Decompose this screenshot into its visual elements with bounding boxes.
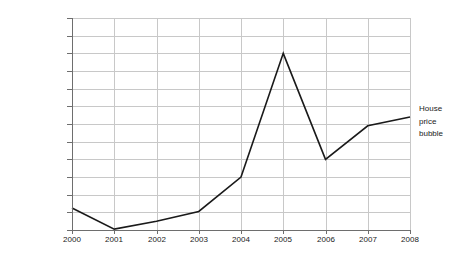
x-tick-mark xyxy=(114,230,115,234)
legend-label: House price bubble xyxy=(419,103,443,141)
x-tick-mark xyxy=(157,230,158,234)
y-axis-line xyxy=(72,18,73,230)
x-tick-label: 2004 xyxy=(232,236,250,244)
x-tick-mark xyxy=(199,230,200,234)
plot-area xyxy=(72,18,410,230)
x-tick-label: 2000 xyxy=(63,236,81,244)
x-tick-label: 2001 xyxy=(105,236,123,244)
x-tick-label: 2006 xyxy=(317,236,335,244)
x-tick-mark xyxy=(410,230,411,234)
x-tick-label: 2008 xyxy=(401,236,419,244)
series-house-price-bubble xyxy=(72,18,410,230)
x-tick-mark xyxy=(72,230,73,234)
x-tick-mark xyxy=(283,230,284,234)
x-tick-label: 2007 xyxy=(359,236,377,244)
x-tick-label: 2002 xyxy=(148,236,166,244)
x-tick-label: 2003 xyxy=(190,236,208,244)
series-polyline xyxy=(72,53,410,229)
x-tick-label: 2005 xyxy=(274,236,292,244)
gridline-vertical xyxy=(410,18,411,230)
x-tick-mark xyxy=(368,230,369,234)
x-tick-mark xyxy=(241,230,242,234)
x-tick-mark xyxy=(326,230,327,234)
line-chart: 0.000000240%0.000000220%0.000000200%0.00… xyxy=(0,0,465,263)
